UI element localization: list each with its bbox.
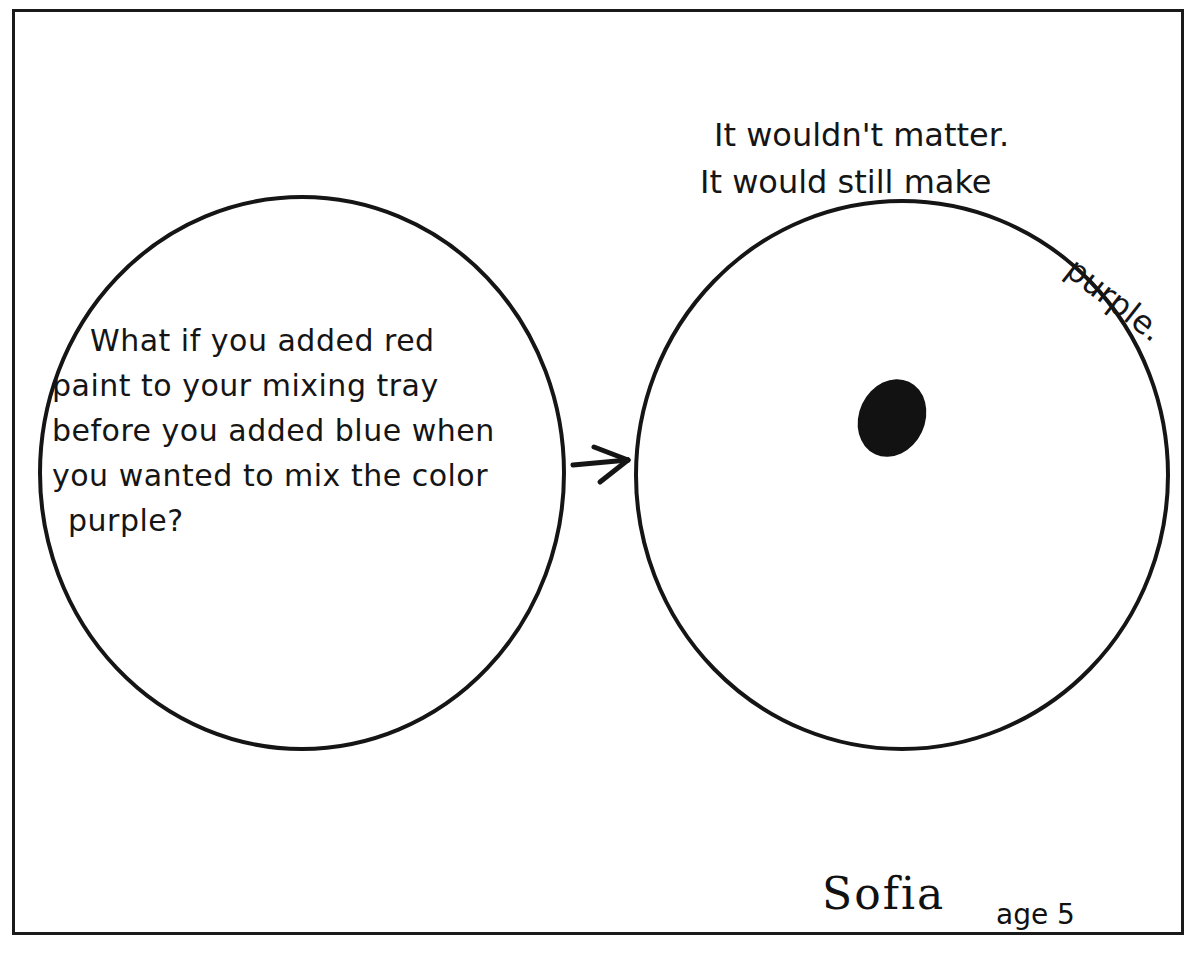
answer-line: It wouldn't matter. (714, 116, 1009, 154)
question-line: What if you added red (52, 318, 552, 363)
question-line: paint to your mixing tray (52, 363, 552, 408)
artist-age: age 5 (996, 898, 1075, 931)
question-line: you wanted to mix the color (52, 453, 552, 498)
question-line: purple? (52, 498, 552, 543)
question-text: What if you added red paint to your mixi… (52, 318, 552, 543)
paint-blob (845, 368, 939, 468)
answer-line: It would still make (700, 163, 991, 201)
arrow-icon (573, 447, 628, 482)
artist-name: Sofia (822, 868, 945, 919)
question-line: before you added blue when (52, 408, 552, 453)
